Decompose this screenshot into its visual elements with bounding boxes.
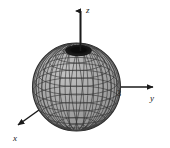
coordinate-system-diagram: z y x 3 (0, 0, 170, 148)
y-axis-label: y (149, 93, 154, 103)
y-axis-tick-3-label: 3 (117, 89, 121, 98)
sphere-figure: z y x 3 (0, 0, 170, 148)
x-axis-label: x (12, 133, 17, 143)
sphere (33, 42, 121, 133)
z-axis-label: z (85, 5, 90, 15)
sphere-polar-cap-inner (70, 47, 86, 53)
